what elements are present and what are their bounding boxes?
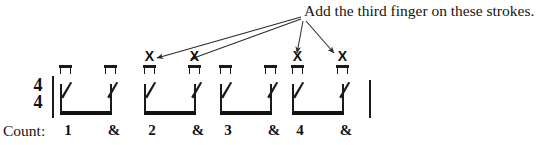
- slash-notehead: [107, 82, 119, 102]
- slash-notehead: [61, 82, 73, 102]
- beam: [60, 111, 112, 115]
- arrow-to-x4: [306, 21, 334, 53]
- downstroke-icon: [60, 66, 71, 74]
- notation-diagram: Add the third finger on these strokes. 4…: [0, 0, 542, 145]
- x-accent-mark: X: [337, 50, 349, 62]
- downstroke-icon: [265, 66, 276, 74]
- count-item: 3: [221, 122, 235, 139]
- count-item: &: [339, 122, 353, 139]
- x-accent-mark: X: [144, 50, 156, 62]
- x-accent-mark: X: [189, 50, 201, 62]
- slash-notehead: [339, 82, 351, 102]
- downstroke-icon: [105, 66, 116, 74]
- time-signature-lower: 4: [28, 93, 49, 110]
- slash-notehead: [191, 82, 203, 102]
- count-item: &: [191, 122, 205, 139]
- slash-notehead: [293, 82, 305, 102]
- count-item: &: [267, 122, 281, 139]
- downstroke-icon: [220, 66, 231, 74]
- arrow-to-x2: [191, 19, 301, 59]
- arrow-lines: [157, 17, 334, 59]
- count-item: 2: [145, 122, 159, 139]
- closing-barline: [369, 80, 371, 118]
- count-label: Count:: [3, 122, 45, 140]
- count-item: 4: [293, 122, 307, 139]
- time-signature: 4 4: [27, 76, 49, 110]
- count-item: 1: [61, 122, 75, 139]
- beam: [144, 111, 196, 115]
- downstroke-icon: [144, 66, 155, 74]
- slash-notehead: [267, 82, 279, 102]
- opening-barline: [52, 76, 54, 118]
- slash-notehead: [221, 82, 233, 102]
- beam: [220, 111, 272, 115]
- downstroke-icon: [189, 66, 200, 74]
- downstroke-icon: [337, 66, 348, 74]
- downstroke-icon: [292, 66, 303, 74]
- beam: [292, 111, 344, 115]
- arrow-to-x1: [157, 17, 301, 58]
- x-accent-mark: X: [292, 50, 304, 62]
- count-item: &: [107, 122, 121, 139]
- slash-notehead: [145, 82, 157, 102]
